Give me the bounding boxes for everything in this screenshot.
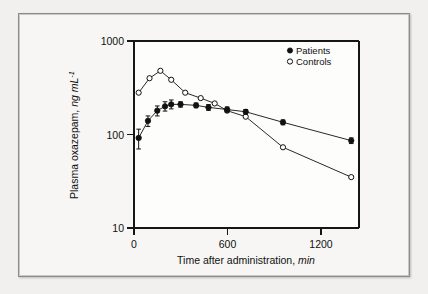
data-point-controls xyxy=(349,175,354,180)
data-point-patients xyxy=(145,118,150,123)
y-tick-label-100: 100 xyxy=(106,129,124,141)
data-point-patients xyxy=(169,102,174,107)
legend-label-controls: Controls xyxy=(296,56,332,67)
legend-marker-patients xyxy=(287,48,292,53)
data-point-controls xyxy=(280,145,285,150)
data-point-controls xyxy=(158,68,163,73)
x-axis-ticks xyxy=(134,228,321,235)
data-point-controls xyxy=(183,90,188,95)
y-axis-title-exponent: -1 xyxy=(67,71,76,78)
data-point-patients xyxy=(280,120,285,125)
x-axis-title: Time after administration, min xyxy=(177,254,315,266)
data-point-patients xyxy=(193,103,198,108)
figure-root: 1000 100 10 0 600 1200 Time after admini… xyxy=(0,0,428,294)
plot-background xyxy=(134,41,359,228)
data-point-patients xyxy=(349,138,354,143)
data-point-controls xyxy=(198,96,203,101)
x-axis-title-text: Time after administration, xyxy=(177,254,298,266)
legend-label-patients: Patients xyxy=(296,45,331,56)
y-tick-label-10: 10 xyxy=(112,222,124,234)
x-tick-label-0: 0 xyxy=(131,238,137,250)
data-point-patients xyxy=(136,135,141,140)
y-axis-title-text: Plasma oxazepam, xyxy=(68,107,80,199)
data-point-patients xyxy=(243,109,248,114)
x-tick-label-1200: 1200 xyxy=(309,238,333,250)
y-axis-title-unit: ng mL xyxy=(68,77,80,106)
y-axis-ticks xyxy=(127,41,134,228)
data-point-controls xyxy=(212,101,217,106)
data-point-patients xyxy=(178,102,183,107)
plasma-oxazepam-line-chart: 1000 100 10 0 600 1200 Time after admini… xyxy=(0,0,428,294)
data-point-patients xyxy=(155,108,160,113)
y-tick-label-1000: 1000 xyxy=(101,35,125,47)
data-point-patients xyxy=(206,105,211,110)
x-axis-title-unit: min xyxy=(298,254,315,266)
legend-marker-controls xyxy=(287,59,292,64)
data-point-patients xyxy=(162,104,167,109)
data-point-controls xyxy=(169,77,174,82)
x-tick-label-600: 600 xyxy=(219,238,237,250)
data-point-controls xyxy=(147,76,152,81)
y-axis-title: Plasma oxazepam, ng mL-1 xyxy=(67,71,80,199)
data-point-controls xyxy=(136,90,141,95)
data-point-patients xyxy=(224,107,229,112)
